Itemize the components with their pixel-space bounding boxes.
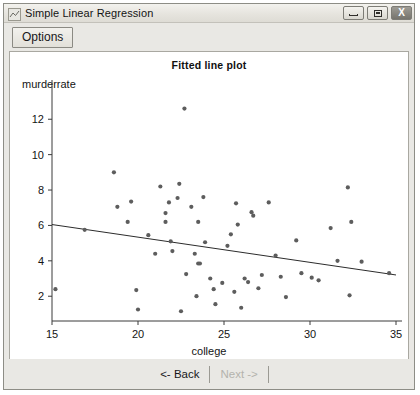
svg-text:20: 20: [132, 328, 144, 340]
data-point: [284, 295, 288, 299]
data-point: [201, 195, 205, 199]
close-icon: X: [392, 7, 411, 19]
close-button[interactable]: X: [391, 6, 412, 20]
title-bar: Simple Linear Regression X: [4, 4, 414, 23]
data-point: [267, 200, 271, 204]
toolbar: Options: [4, 23, 414, 51]
data-point: [251, 214, 255, 218]
data-point: [193, 252, 197, 256]
data-point: [198, 261, 202, 265]
data-point: [177, 182, 181, 186]
data-point: [387, 271, 391, 275]
wizard-footer: <- Back Next ->: [4, 359, 414, 389]
data-point: [317, 278, 321, 282]
data-point: [279, 275, 283, 279]
scatter-plot: 246810121520253035: [10, 52, 408, 359]
data-point: [256, 286, 260, 290]
svg-text:15: 15: [46, 328, 58, 340]
data-point: [175, 196, 179, 200]
data-point: [212, 287, 216, 291]
data-point: [129, 199, 133, 203]
maximize-button[interactable]: [367, 6, 388, 20]
data-point: [229, 232, 233, 236]
data-point: [194, 294, 198, 298]
data-point: [163, 220, 167, 224]
data-point: [349, 220, 353, 224]
svg-text:12: 12: [32, 113, 44, 125]
data-point: [83, 228, 87, 232]
minimize-icon: [349, 14, 358, 16]
maximize-icon: [374, 10, 382, 17]
data-point: [153, 252, 157, 256]
svg-text:25: 25: [218, 328, 230, 340]
data-point: [169, 239, 173, 243]
data-point: [208, 276, 212, 280]
data-point: [310, 276, 314, 280]
minimize-button[interactable]: [343, 6, 364, 20]
data-point: [53, 287, 57, 291]
data-point: [170, 249, 174, 253]
data-point: [347, 293, 351, 297]
data-point: [163, 211, 167, 215]
data-point: [146, 233, 150, 237]
options-button[interactable]: Options: [12, 27, 73, 48]
svg-text:8: 8: [38, 184, 44, 196]
data-point: [274, 253, 278, 257]
svg-text:35: 35: [390, 328, 402, 340]
data-point: [184, 272, 188, 276]
data-point: [136, 307, 140, 311]
data-point: [134, 288, 138, 292]
chart-panel: Fitted line plot murderrate 246810121520…: [9, 51, 409, 359]
data-point: [346, 185, 350, 189]
app-icon: [8, 7, 21, 20]
data-point: [179, 309, 183, 313]
data-point: [213, 302, 217, 306]
svg-text:4: 4: [38, 255, 44, 267]
data-point: [196, 220, 200, 224]
data-point: [299, 271, 303, 275]
data-point: [239, 306, 243, 310]
back-button[interactable]: <- Back: [149, 366, 210, 383]
svg-text:2: 2: [38, 290, 44, 302]
data-point: [158, 184, 162, 188]
data-point: [225, 244, 229, 248]
data-point: [126, 220, 130, 224]
svg-text:30: 30: [304, 328, 316, 340]
application-window: Simple Linear Regression X Options Fitte…: [3, 3, 415, 390]
data-point: [220, 281, 224, 285]
data-point: [360, 260, 364, 264]
window-controls: X: [343, 6, 412, 20]
data-point: [167, 200, 171, 204]
svg-text:6: 6: [38, 219, 44, 231]
data-point: [243, 276, 247, 280]
data-point: [246, 280, 250, 284]
data-point: [203, 240, 207, 244]
data-point: [182, 107, 186, 111]
data-point: [294, 238, 298, 242]
data-point: [112, 170, 116, 174]
x-axis-label: college: [10, 345, 408, 357]
data-point: [234, 201, 238, 205]
data-point: [236, 222, 240, 226]
data-point: [260, 273, 264, 277]
data-point: [335, 259, 339, 263]
data-point: [329, 226, 333, 230]
data-point: [115, 205, 119, 209]
data-point: [189, 205, 193, 209]
data-point: [232, 290, 236, 294]
next-button: Next ->: [210, 366, 268, 383]
svg-text:10: 10: [32, 149, 44, 161]
window-title: Simple Linear Regression: [25, 7, 343, 19]
